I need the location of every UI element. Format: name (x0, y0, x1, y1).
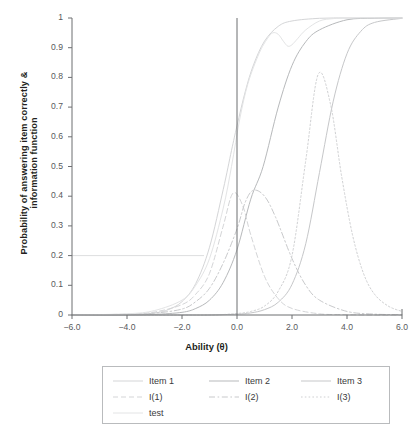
legend-key-dashed (113, 389, 143, 405)
y-tick-label: 0.1 (33, 279, 63, 289)
y-tick-label: 0 (33, 309, 63, 319)
x-tick-label: 4.0 (327, 322, 367, 332)
legend-label: Item 2 (245, 373, 270, 389)
y-tick-label: 0.2 (33, 250, 63, 260)
legend-label: test (149, 405, 164, 421)
x-tick-label: 6.0 (382, 322, 413, 332)
legend-label: I(1) (149, 389, 163, 405)
legend-key-solid (209, 373, 239, 389)
legend-label: I(2) (245, 389, 259, 405)
y-tick-label: 0.9 (33, 42, 63, 52)
legend-key-dashdot (209, 389, 239, 405)
legend-key-dotted (301, 389, 331, 405)
x-tick-label: −6.0 (52, 322, 92, 332)
legend-label: Item 3 (337, 373, 362, 389)
y-tick-label: 0.8 (33, 71, 63, 81)
x-tick-label: −2.0 (162, 322, 202, 332)
legend-key-solid (301, 373, 331, 389)
legend-key-solid (113, 405, 143, 421)
y-tick-label: 0.6 (33, 131, 63, 141)
y-tick-label: 0.4 (33, 190, 63, 200)
legend: Item 1Item 2Item 3I(1)I(2)I(3)test (102, 366, 390, 424)
y-tick-label: 0.5 (33, 161, 63, 171)
y-axis-title-line1: Probability of answering item correctly … (19, 8, 29, 318)
legend-label: Item 1 (149, 373, 174, 389)
x-tick-label: 0.0 (217, 322, 257, 332)
legend-key-solid (113, 373, 143, 389)
y-tick-label: 0.3 (33, 220, 63, 230)
x-axis-title: Ability (θ) (0, 341, 413, 352)
y-tick-label: 1 (33, 12, 63, 22)
legend-label: I(3) (337, 389, 351, 405)
x-tick-label: −4.0 (107, 322, 147, 332)
y-axis-title: Probability of answering item correctly … (10, 0, 30, 330)
x-tick-label: 2.0 (272, 322, 312, 332)
y-tick-label: 0.7 (33, 101, 63, 111)
